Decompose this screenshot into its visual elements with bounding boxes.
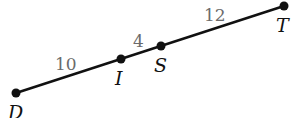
label-T: T: [276, 14, 290, 36]
label-I: I: [114, 67, 123, 89]
segment-diagram: 10 4 12 D I S T: [0, 0, 297, 118]
length-DI: 10: [55, 54, 77, 74]
point-I: [117, 55, 126, 64]
point-T: [280, 2, 289, 11]
length-ST: 12: [204, 5, 226, 25]
line-DT: [16, 6, 284, 93]
label-S: S: [154, 54, 167, 76]
label-D: D: [7, 101, 23, 118]
point-S: [157, 42, 166, 51]
point-D: [12, 89, 21, 98]
length-IS: 4: [133, 31, 144, 51]
